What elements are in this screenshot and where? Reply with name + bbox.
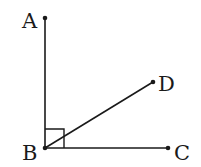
geometry-diagram: A B C D <box>0 0 201 167</box>
point-c <box>166 146 171 151</box>
point-d <box>151 80 156 85</box>
label-a: A <box>21 9 38 33</box>
label-d: D <box>158 72 175 96</box>
label-c: C <box>174 141 190 165</box>
label-b: B <box>22 141 37 165</box>
point-a <box>43 16 48 21</box>
segment-bd <box>45 82 153 148</box>
point-b <box>43 146 48 151</box>
